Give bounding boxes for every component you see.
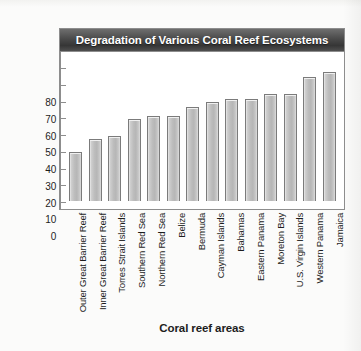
x-axis-tick-slot: Western Panama <box>305 211 318 319</box>
bar <box>303 77 316 201</box>
chart-title: Degradation of Various Coral Reef Ecosys… <box>76 34 329 46</box>
y-axis-tick-label: 30 <box>36 182 56 192</box>
x-axis-tick-slot: Moreton Bay <box>265 211 278 319</box>
x-axis-tick-labels: Outer Great Barrier ReefInner Great Barr… <box>59 211 345 319</box>
bar <box>89 139 102 201</box>
x-axis-tick-slot: Belize <box>166 211 179 319</box>
x-axis-tick-slot: Outer Great Barrier Reef <box>67 211 80 319</box>
bar-series <box>61 52 343 209</box>
x-axis-tick-slot: Eastern Panama <box>245 211 258 319</box>
x-axis-tick-slot: U.S. Virgin Islands <box>285 211 298 319</box>
bar <box>128 119 141 201</box>
x-axis-tick-slot: Inner Great Barrier Reef <box>87 211 100 319</box>
x-axis-tick-slot: Jamaica <box>325 211 338 319</box>
y-axis-tick-label: 10 <box>36 215 56 225</box>
x-axis-tick-slot: Torres Strait Islands <box>107 211 120 319</box>
y-axis-tick-label: 50 <box>36 148 56 158</box>
x-axis-tick-slot: Southern Red Sea <box>127 211 140 319</box>
x-axis-title: Coral reef areas <box>59 322 345 334</box>
y-axis-tick-label: 20 <box>36 199 56 209</box>
x-axis-tick-slot: Bahamas <box>226 211 239 319</box>
y-axis-tick-label: 80 <box>36 98 56 108</box>
bar <box>284 94 297 201</box>
chart-title-bar: Degradation of Various Coral Reef Ecosys… <box>60 29 344 52</box>
bar <box>206 102 219 201</box>
bar <box>245 99 258 201</box>
bar <box>225 99 238 201</box>
bar <box>167 116 180 201</box>
plot-area <box>60 52 344 209</box>
y-axis-tick-label: 0 <box>36 232 56 242</box>
bar <box>147 116 160 201</box>
x-axis-tick-slot: Bermuda <box>186 211 199 319</box>
bar <box>108 136 121 201</box>
y-axis-tick-label: 60 <box>36 132 56 142</box>
x-axis-tick-label: Jamaica <box>335 213 345 247</box>
bar <box>323 72 336 201</box>
x-axis-tick-slot: Cayman Islands <box>206 211 219 319</box>
y-axis-tick-labels: 80706050403020100 <box>36 69 56 215</box>
y-axis-tick-label: 70 <box>36 115 56 125</box>
chart-plot-frame: Degradation of Various Coral Reef Ecosys… <box>59 28 345 210</box>
bar <box>264 94 277 201</box>
y-axis-tick-label: 40 <box>36 165 56 175</box>
bar <box>69 152 82 201</box>
x-axis-tick-slot: Northern Red Sea <box>147 211 160 319</box>
bar-chart-figure: Percent degradation 80706050403020100 De… <box>0 0 361 351</box>
bar <box>186 107 199 201</box>
